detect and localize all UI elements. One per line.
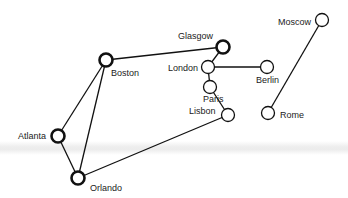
node-label-orlando: Orlando xyxy=(90,183,122,193)
network-diagram: BostonGlasgowLondonBerlinParisLisbonMosc… xyxy=(0,0,348,198)
edge-boston-orlando xyxy=(78,60,106,178)
node-lisbon xyxy=(222,109,235,122)
node-boston xyxy=(100,54,113,67)
node-label-lisbon: Lisbon xyxy=(189,106,216,116)
node-rome xyxy=(262,107,275,120)
graph-canvas xyxy=(0,0,348,198)
node-label-moscow: Moscow xyxy=(278,17,311,27)
node-label-boston: Boston xyxy=(111,68,139,78)
edge-boston-atlanta xyxy=(58,60,106,136)
edge-boston-glasgow xyxy=(106,47,223,60)
node-label-glasgow: Glasgow xyxy=(178,31,213,41)
node-label-paris: Paris xyxy=(203,94,224,104)
node-label-london: London xyxy=(168,63,198,73)
node-moscow xyxy=(316,14,329,27)
edge-orlando-lisbon xyxy=(78,115,228,178)
node-paris xyxy=(204,81,217,94)
node-label-berlin: Berlin xyxy=(256,75,279,85)
node-label-atlanta: Atlanta xyxy=(18,131,46,141)
node-london xyxy=(202,61,215,74)
node-atlanta xyxy=(52,130,65,143)
node-label-rome: Rome xyxy=(280,110,304,120)
edge-moscow-rome xyxy=(268,20,322,113)
node-glasgow xyxy=(217,41,230,54)
node-berlin xyxy=(261,61,274,74)
node-orlando xyxy=(72,172,85,185)
